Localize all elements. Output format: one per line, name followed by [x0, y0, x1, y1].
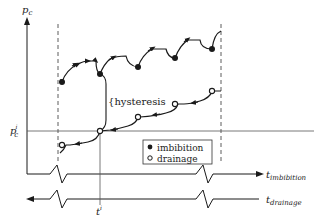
svg-text:imbibition: imbibition — [157, 143, 204, 153]
imbibition-axis-arrow-icon — [256, 171, 264, 177]
imbibition-points — [59, 46, 215, 85]
hysteresis-label: {hysteresis — [108, 96, 166, 107]
x-axis-imbibition-label: timbibition — [266, 169, 307, 182]
pc-i-label: pic — [10, 123, 18, 139]
x-axis-imbibition: timbibition — [27, 165, 307, 183]
x-axis-drainage-label: tdrainage — [266, 194, 302, 207]
x-axis-drainage: tdrainage — [26, 190, 302, 208]
filled-circle-icon — [148, 145, 153, 150]
y-axis-arrow-icon — [24, 17, 30, 25]
drainage-axis-arrow-icon — [26, 196, 34, 202]
legend: imbibition drainage — [143, 140, 212, 164]
hysteresis-diagram: pc timbibition tdrainage pic ti — [0, 0, 314, 223]
open-circle-icon — [148, 156, 152, 160]
hysteresis-connector: {hysteresis — [100, 74, 166, 131]
imbibition-curve — [60, 31, 221, 82]
t-i-label: ti — [96, 204, 102, 217]
y-axis-label: pc — [22, 4, 32, 17]
y-axis: pc — [22, 4, 32, 174]
svg-text:drainage: drainage — [157, 154, 198, 164]
